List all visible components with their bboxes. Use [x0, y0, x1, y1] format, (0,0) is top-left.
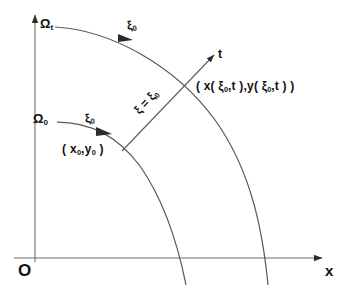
current-point-close: ,t ) ) [271, 79, 294, 93]
initial-point-label: ( x0,y0 ) [62, 143, 104, 157]
xi-lower-curve-label: ξ0 [84, 111, 95, 126]
initial-point-close: ) [96, 142, 104, 156]
current-point-label: ( x( ξ0,t ),y( ξ0,t ) ) [196, 80, 295, 94]
initial-point-open: ( x [62, 142, 77, 156]
omega-0-arc-direction-arrow [96, 127, 112, 136]
omega-t-arc-direction-arrow [118, 34, 133, 42]
x-axis-label: x [325, 263, 333, 278]
initial-point-mid: ,y [81, 142, 92, 156]
omega-t-subscript: t [50, 23, 53, 32]
origin-label: O [18, 262, 31, 279]
omega-0-subscript: 0 [43, 118, 47, 127]
current-point-mid: ,t ),y( ξ [228, 79, 267, 93]
omega-t-label: Ωt [40, 17, 53, 32]
lagrangian-mapping-figure: O x Ωt Ω0 ξ0 ξ0 t ξ = ξ0 ( x0,y0 ) ( x( … [0, 0, 345, 298]
omega-t-symbol: Ω [40, 16, 50, 31]
omega-0-label: Ω0 [33, 112, 48, 127]
t-axis-label: t [218, 48, 222, 60]
omega-0-symbol: Ω [33, 111, 43, 126]
xi-upper-curve-label: ξ0 [126, 18, 137, 33]
figure-canvas [0, 0, 345, 298]
current-point-open: ( x( ξ [196, 79, 224, 93]
